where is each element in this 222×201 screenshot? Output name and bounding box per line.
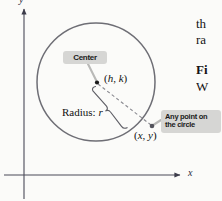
body-text-line-1: th [196, 16, 222, 32]
figure-page: Center Any point on the circle (h, k) (x… [0, 0, 222, 201]
point-coordinates-label: (x, y) [134, 129, 157, 141]
center-coordinates-label: (h, k) [104, 72, 127, 84]
center-point-dot [95, 80, 99, 84]
body-text-line-2: ra [196, 32, 222, 48]
circle-point-dot [150, 124, 155, 129]
body-text-line-3: W [196, 79, 222, 95]
center-callout-leader-line [88, 64, 97, 81]
y-axis-label: y [19, 0, 23, 5]
radius-label: Radius: r [62, 106, 103, 118]
callout-center: Center [63, 51, 107, 64]
x-axis-label: x [188, 167, 192, 178]
callout-any-point-line-2: the circle [165, 121, 217, 129]
callout-any-point-on-circle: Any point on the circle [161, 110, 221, 133]
figure-heading-text: Fi [196, 62, 222, 78]
radius-dashed-segment [98, 84, 151, 125]
